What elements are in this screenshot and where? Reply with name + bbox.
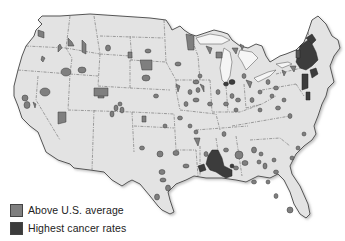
highest-rates-swatch	[10, 222, 23, 235]
legend-label: Highest cancer rates	[28, 222, 126, 234]
legend-item-highest-rates: Highest cancer rates	[10, 220, 126, 236]
above-average-swatch	[10, 204, 23, 217]
legend-label: Above U.S. average	[28, 204, 124, 216]
legend-item-above-average: Above U.S. average	[10, 202, 126, 218]
map-legend: Above U.S. average Highest cancer rates	[10, 202, 126, 238]
